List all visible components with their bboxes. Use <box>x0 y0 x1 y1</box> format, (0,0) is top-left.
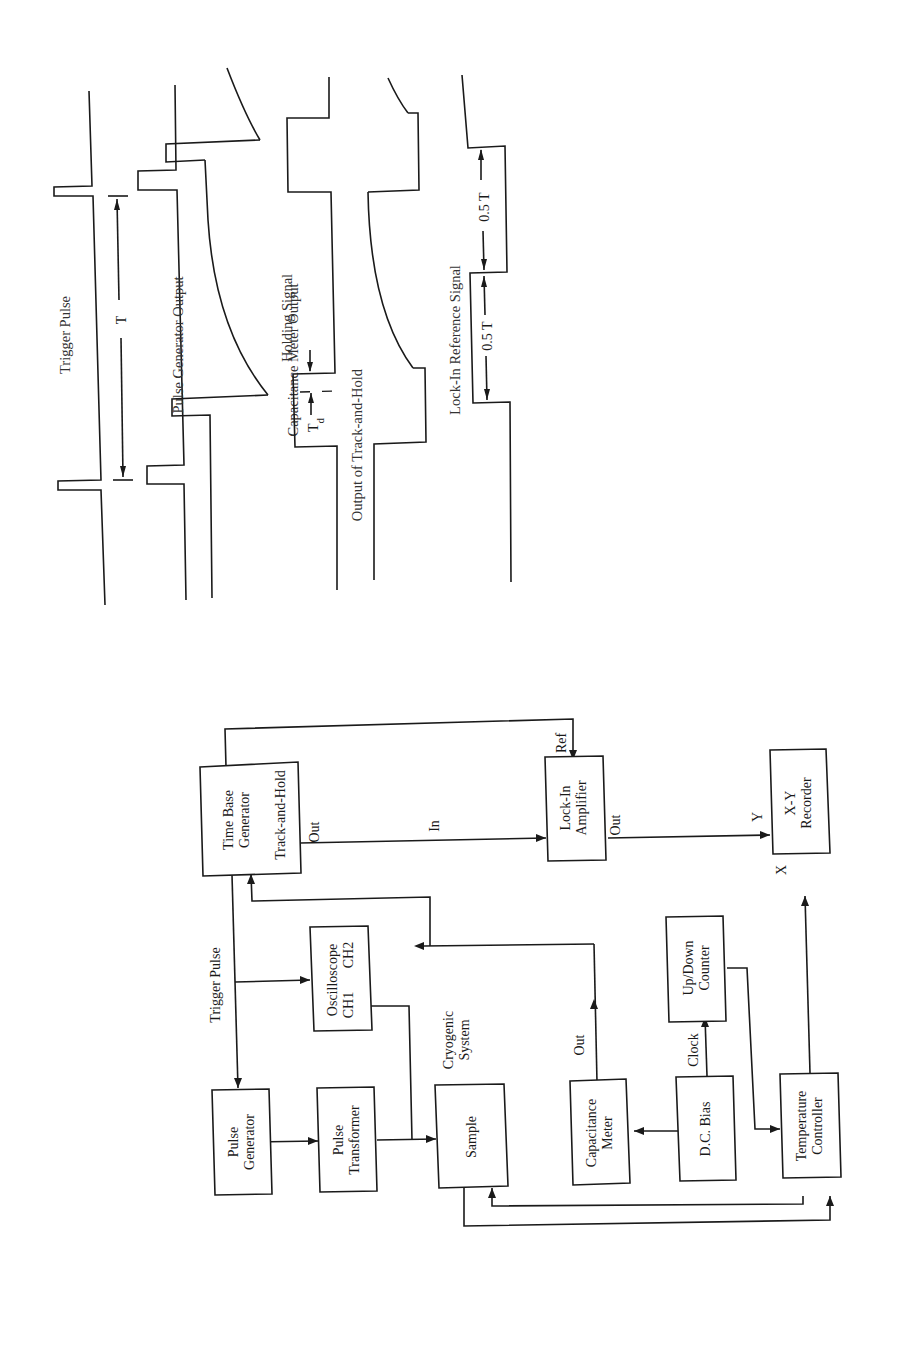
arrow-right-icon <box>300 976 310 984</box>
arrow-up-icon <box>308 393 314 403</box>
svg-text:D.C. Bias: D.C. Bias <box>698 1102 713 1157</box>
svg-text:Recorder: Recorder <box>799 777 814 829</box>
label-trigger-pulse: Trigger Pulse <box>57 296 73 374</box>
svg-text:Generator: Generator <box>237 792 252 848</box>
label-delay-Td: Td <box>306 418 326 433</box>
svg-text:Amplifier: Amplifier <box>574 780 589 836</box>
svg-text:Temperature: Temperature <box>794 1091 809 1162</box>
svg-text:Meter: Meter <box>600 1116 615 1150</box>
label-xy-x: X <box>774 865 789 875</box>
arrow-up-icon <box>801 896 809 906</box>
arrow-right-icon <box>426 1135 436 1143</box>
arrow-down-icon <box>234 1078 242 1088</box>
block-temperature-controller[interactable]: Temperature Controller <box>780 1073 841 1178</box>
arrow-up-icon <box>590 999 598 1009</box>
block-capacitance-meter[interactable]: Capacitance Meter <box>570 1079 630 1185</box>
label-clock: Clock <box>686 1033 701 1066</box>
waveform-lockin-reference: Lock-In Reference Signal 0.5 T 0.5 T <box>447 75 511 582</box>
block-time-base-generator[interactable]: Time Base Generator Track-and-Hold <box>200 762 301 876</box>
arrow-down-icon <box>120 466 126 477</box>
svg-text:CH1: CH1 <box>341 992 356 1018</box>
arrow-down-icon <box>484 389 490 400</box>
block-xy-recorder[interactable]: X-Y Recorder <box>770 749 830 854</box>
waveform-track-and-hold-output: Output of Track-and-Hold <box>349 78 426 580</box>
svg-text:X-Y: X-Y <box>783 791 798 816</box>
svg-text:Sample: Sample <box>464 1116 479 1158</box>
arrow-up-icon <box>826 1196 834 1206</box>
svg-text:Transformer: Transformer <box>347 1105 362 1175</box>
svg-text:Lock-In: Lock-In <box>558 785 573 830</box>
svg-text:Track-and-Hold: Track-and-Hold <box>273 770 288 860</box>
block-oscilloscope[interactable]: Oscilloscope CH1 CH2 <box>310 926 372 1031</box>
svg-text:Counter: Counter <box>697 945 712 990</box>
label-th-out: Out <box>307 821 322 842</box>
waveform-holding-signal: Holding Signal Td <box>279 77 337 590</box>
timing-diagram: Trigger Pulse T Pulse Generator Output C… <box>54 68 511 605</box>
label-lockin-reference-signal: Lock-In Reference Signal <box>447 265 463 415</box>
svg-text:Oscilloscope: Oscilloscope <box>325 944 340 1016</box>
label-lockin-in: In <box>427 820 442 832</box>
arrow-up-icon <box>114 199 120 210</box>
label-cryogenic: Cryogenic <box>441 1011 456 1069</box>
label-half-period-2: 0.5 T <box>480 321 495 351</box>
arrow-right-icon <box>760 831 770 839</box>
arrow-right-icon <box>536 834 546 842</box>
arrow-up-icon <box>481 276 487 287</box>
arrow-right-icon <box>770 1125 780 1133</box>
svg-text:CH2: CH2 <box>341 942 356 968</box>
arrow-right-icon <box>308 1137 318 1145</box>
block-pulse-transformer[interactable]: Pulse Transformer <box>317 1087 377 1192</box>
label-lockin-ref: Ref <box>554 733 569 754</box>
label-trigger-pulse-line: Trigger Pulse <box>208 947 223 1022</box>
svg-text:Time Base: Time Base <box>221 790 236 850</box>
svg-text:Generator: Generator <box>242 1114 257 1170</box>
label-xy-y: Y <box>750 812 765 822</box>
label-half-period-1: 0.5 T <box>477 192 492 222</box>
block-pulse-generator[interactable]: Pulse Generator <box>212 1089 272 1195</box>
label-pulse-generator-output: Pulse Generator Output <box>170 277 186 414</box>
arrow-down-icon <box>307 362 313 372</box>
arrow-left-icon <box>634 1127 644 1135</box>
label-output-of-track-and-hold: Output of Track-and-Hold <box>349 368 365 521</box>
arrow-up-icon <box>478 149 484 160</box>
svg-text:Up/Down: Up/Down <box>681 940 696 995</box>
arrow-up-icon <box>247 874 255 884</box>
svg-text:Pulse: Pulse <box>331 1125 346 1155</box>
label-system: System <box>457 1019 472 1060</box>
waveform-pulse-generator: Pulse Generator Output <box>138 85 186 600</box>
svg-text:Controller: Controller <box>810 1097 825 1155</box>
svg-text:Capacitance: Capacitance <box>584 1099 599 1167</box>
block-lockin-amplifier[interactable]: Lock-In Amplifier <box>545 756 606 861</box>
label-period-T: T <box>114 315 129 324</box>
label-cap-out: Out <box>572 1034 587 1055</box>
svg-text:Pulse: Pulse <box>226 1127 241 1157</box>
waveform-trigger-pulse: Trigger Pulse T <box>54 91 133 605</box>
block-sample[interactable]: Sample <box>435 1084 508 1188</box>
block-dc-bias[interactable]: D.C. Bias <box>676 1076 736 1181</box>
label-holding-signal: Holding Signal <box>279 274 295 362</box>
label-lockin-out: Out <box>608 814 623 835</box>
arrow-down-icon <box>481 259 487 270</box>
figure-canvas: Trigger Pulse T Pulse Generator Output C… <box>0 0 916 1352</box>
block-diagram: Time Base Generator Track-and-Hold Lock-… <box>200 719 841 1226</box>
arrow-up-icon <box>488 1188 496 1198</box>
arrow-left-icon <box>414 942 424 950</box>
block-updown-counter[interactable]: Up/Down Counter <box>666 916 726 1022</box>
